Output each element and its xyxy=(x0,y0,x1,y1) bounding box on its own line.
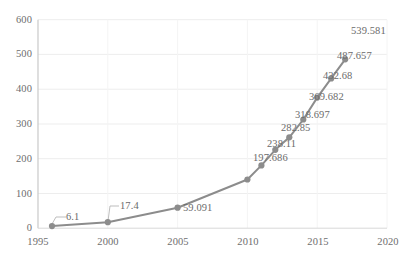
data-label-2013: 318.697 xyxy=(295,109,330,120)
horizontal-gridlines xyxy=(38,20,387,194)
data-label-2016: 487.657 xyxy=(337,50,372,61)
data-label-1996: 6.1 xyxy=(66,211,79,222)
line-chart: 600 500 400 300 200 100 0 1995 2000 2005… xyxy=(0,0,403,255)
data-label-2012: 282.85 xyxy=(281,122,310,133)
data-label-2005: 59.091 xyxy=(183,202,212,213)
data-label-2017: 539.581 xyxy=(351,25,386,36)
data-label-2011: 238.11 xyxy=(267,138,296,149)
plot-area xyxy=(0,0,403,255)
data-label-2000: 17.4 xyxy=(120,200,139,211)
data-label-2010: 197.686 xyxy=(253,152,288,163)
data-label-2014: 369.682 xyxy=(309,91,344,102)
data-label-2015: 432.68 xyxy=(323,70,352,81)
